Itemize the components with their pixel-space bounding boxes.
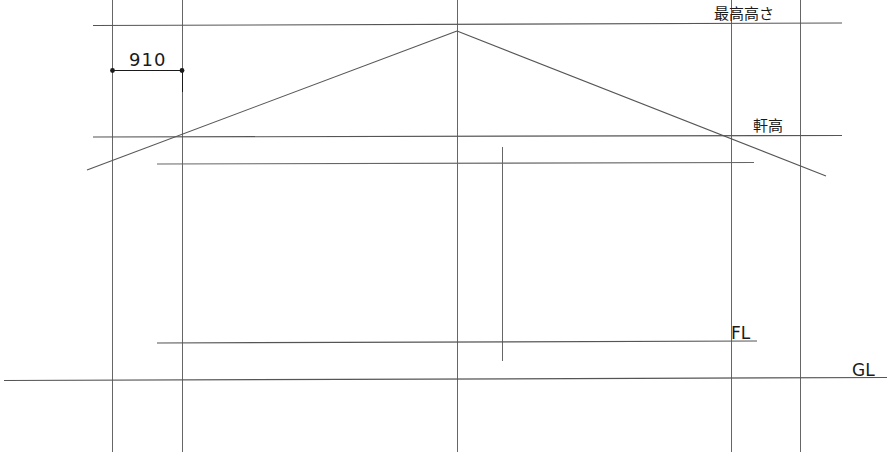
level-line-eaves-height bbox=[93, 136, 842, 138]
label-eaves-height: 軒高 bbox=[753, 117, 783, 135]
label-floor-level: FL bbox=[731, 323, 751, 343]
wall-top-line bbox=[157, 163, 754, 165]
dimension-910: 910 bbox=[110, 49, 184, 92]
level-line-ground bbox=[4, 378, 887, 381]
dimension-tick-left bbox=[110, 68, 115, 73]
level-line-max-height bbox=[93, 23, 842, 26]
vertical-reference-lines bbox=[113, 0, 801, 452]
roof-slope-right bbox=[457, 31, 826, 176]
label-ground-level: GL bbox=[852, 360, 875, 380]
roof-outline bbox=[87, 31, 826, 176]
elevation-drawing-canvas: 910 最高高さ 軒高 FL GL bbox=[0, 0, 887, 464]
label-max-height: 最高高さ bbox=[714, 5, 774, 23]
dimension-value-910: 910 bbox=[129, 49, 166, 70]
elevation-svg: 910 最高高さ 軒高 FL GL bbox=[0, 0, 887, 464]
